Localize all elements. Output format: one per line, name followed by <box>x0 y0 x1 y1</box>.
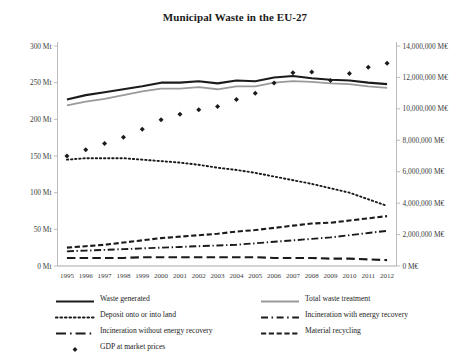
x-axis-tick-label: 2006 <box>267 272 282 280</box>
x-axis-tick-label: 2012 <box>380 272 395 280</box>
y-axis-right-tick-label: 2,000,000 M€ <box>403 230 445 239</box>
x-axis-tick-label: 2010 <box>342 272 357 280</box>
data-point-marker <box>159 117 164 122</box>
y-axis-left-tick-label: 200 Mt <box>30 115 53 124</box>
legend-key-glyph <box>260 296 300 307</box>
series-total-waste-treatment <box>67 81 387 105</box>
legend-item-label: GDP at market prices <box>100 342 165 351</box>
data-point-marker <box>366 65 371 70</box>
y-axis-left-tick-label: 100 Mt <box>30 188 53 197</box>
x-axis-tick-label: 2000 <box>154 272 169 280</box>
legend-key-glyph <box>55 328 95 339</box>
legend-key <box>55 293 95 304</box>
chart-legend: Waste generatedTotal waste treatmentDepo… <box>55 291 455 357</box>
legend-key-glyph <box>260 328 300 339</box>
series-incineration-with-energy-recovery <box>67 231 387 252</box>
series-material-recycling <box>67 216 387 248</box>
legend-item-material-recycling[interactable]: Material recycling <box>260 323 460 338</box>
y-axis-right-tick-label: 4,000,000 M€ <box>403 199 445 208</box>
data-point-marker <box>121 135 126 140</box>
y-axis-left-tick-label: 150 Mt <box>30 152 53 161</box>
y-axis-left-tick-label: 0 Mt <box>37 262 52 271</box>
series-line <box>67 158 387 206</box>
legend-item-gdp-at-market-prices[interactable]: GDP at market prices <box>55 339 265 354</box>
legend-key <box>260 293 300 304</box>
y-axis-left-tick-label: 50 Mt <box>34 225 53 234</box>
data-point-marker <box>272 80 277 85</box>
x-axis-tick-label: 2004 <box>229 272 244 280</box>
legend-key <box>55 309 95 320</box>
x-axis-tick-label: 1999 <box>135 272 150 280</box>
y-axis-left-tick-label: 300 Mt <box>30 42 53 51</box>
data-point-marker <box>290 70 295 75</box>
data-point-marker <box>140 127 145 132</box>
data-point-marker <box>215 104 220 109</box>
x-axis-tick-label: 2007 <box>286 272 301 280</box>
legend-key <box>55 325 95 336</box>
chart-figure: Municipal Waste in the EU-27 0 Mt50 Mt10… <box>0 0 470 362</box>
data-point-marker <box>83 147 88 152</box>
y-axis-right-tick-label: 14,000,000 M€ <box>403 42 449 51</box>
series-deposit-onto-or-into-land <box>67 158 387 206</box>
x-axis-tick-label: 2009 <box>324 272 339 280</box>
legend-key-glyph <box>260 312 300 323</box>
data-point-marker <box>102 141 107 146</box>
x-axis-tick-label: 2001 <box>173 272 188 280</box>
legend-item-incineration-with-energy-recovery[interactable]: Incineration with energy recovery <box>260 307 460 322</box>
legend-item-label: Incineration without energy recovery <box>100 326 213 335</box>
legend-item-deposit-onto-or-into-land[interactable]: Deposit onto or into land <box>55 307 265 322</box>
data-point-marker <box>64 154 69 159</box>
legend-key <box>260 309 300 320</box>
series-line <box>67 216 387 248</box>
y-axis-right-tick-label: 10,000,000 M€ <box>403 104 449 113</box>
x-axis-tick-label: 1995 <box>60 272 75 280</box>
x-axis-tick-label: 1997 <box>98 272 113 280</box>
x-axis-tick-label: 2008 <box>305 272 320 280</box>
legend-item-label: Total waste treatment <box>305 294 370 303</box>
series-incineration-without-energy-recovery <box>67 257 387 260</box>
data-point-marker <box>347 71 352 76</box>
legend-item-incineration-without-energy-recovery[interactable]: Incineration without energy recovery <box>55 323 265 338</box>
legend-key-glyph <box>55 296 95 307</box>
y-axis-right-tick-label: 6,000,000 M€ <box>403 167 445 176</box>
data-point-marker <box>253 91 258 96</box>
legend-item-label: Incineration with energy recovery <box>305 310 408 319</box>
x-axis-tick-label: 2005 <box>248 272 263 280</box>
legend-item-label: Material recycling <box>305 326 361 335</box>
y-axis-right-tick-label: 0 M€ <box>403 262 419 271</box>
series-gdp-at-market-prices <box>64 61 389 159</box>
data-point-marker <box>177 112 182 117</box>
x-axis-tick-label: 2011 <box>361 272 375 280</box>
x-axis-tick-label: 1998 <box>116 272 131 280</box>
data-point-marker <box>196 107 201 112</box>
legend-key <box>260 325 300 336</box>
x-axis-tick-label: 2002 <box>192 272 207 280</box>
y-axis-right-tick-label: 12,000,000 M€ <box>403 73 449 82</box>
legend-key-glyph <box>55 344 95 355</box>
series-line <box>67 231 387 252</box>
y-axis-left-tick-label: 250 Mt <box>30 78 53 87</box>
data-point-marker <box>309 69 314 74</box>
series-line <box>67 81 387 105</box>
legend-item-label: Deposit onto or into land <box>100 310 176 319</box>
x-axis-tick-label: 2003 <box>211 272 226 280</box>
x-axis-tick-label: 1996 <box>79 272 94 280</box>
y-axis-right-tick-label: 8,000,000 M€ <box>403 136 445 145</box>
legend-item-waste-generated[interactable]: Waste generated <box>55 291 265 306</box>
data-point-marker <box>234 97 239 102</box>
data-point-marker <box>385 61 390 66</box>
legend-key <box>55 341 95 352</box>
legend-item-label: Waste generated <box>100 294 150 303</box>
legend-item-total-waste-treatment[interactable]: Total waste treatment <box>260 291 460 306</box>
legend-key-glyph <box>55 312 95 323</box>
series-line <box>67 257 387 260</box>
